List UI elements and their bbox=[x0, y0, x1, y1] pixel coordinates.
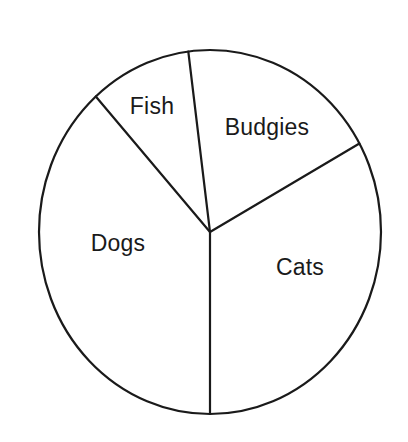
slice-label-cats: Cats bbox=[276, 256, 324, 279]
slice-label-budgies: Budgies bbox=[225, 116, 310, 139]
pie-chart-canvas bbox=[0, 0, 408, 442]
slice-label-fish: Fish bbox=[130, 95, 174, 118]
slice-label-dogs: Dogs bbox=[91, 232, 146, 255]
pie-chart-figure: Budgies Cats Dogs Fish bbox=[0, 0, 408, 442]
